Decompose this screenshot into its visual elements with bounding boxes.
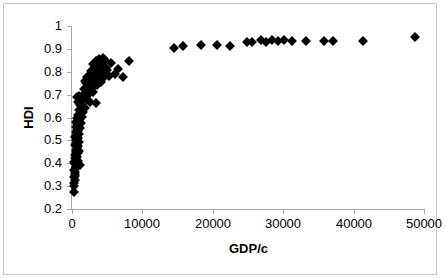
y-tick-label: 1 [4, 19, 62, 32]
data-point [118, 73, 128, 83]
x-tick-mark [424, 210, 425, 214]
data-point [178, 41, 188, 51]
y-tick-label: 0.8 [4, 65, 62, 78]
data-point [124, 57, 134, 67]
y-axis-title: HDI [21, 88, 36, 148]
data-point [358, 36, 368, 46]
x-tick-mark [142, 210, 143, 214]
x-tick-label: 0 [37, 217, 107, 230]
y-tick-mark [67, 26, 71, 27]
x-tick-label: 40000 [319, 217, 389, 230]
x-tick-label: 10000 [107, 217, 177, 230]
x-tick-mark [213, 210, 214, 214]
y-tick-mark [67, 95, 71, 96]
x-tick-label: 50000 [389, 217, 447, 230]
y-tick-mark [67, 118, 71, 119]
y-tick-label: 0.4 [4, 156, 62, 169]
scatter-plot-area [72, 26, 424, 209]
data-point [287, 36, 297, 46]
data-point [301, 36, 311, 46]
data-point [196, 40, 206, 50]
x-tick-label: 20000 [178, 217, 248, 230]
data-point [212, 40, 222, 50]
x-tick-mark [283, 210, 284, 214]
y-tick-label: 0.9 [4, 42, 62, 55]
y-tick-mark [67, 209, 71, 210]
y-tick-mark [67, 49, 71, 50]
x-axis-line [72, 209, 425, 210]
x-axis-title: GDP/c [72, 241, 425, 256]
x-tick-mark [72, 210, 73, 214]
x-tick-label: 30000 [248, 217, 318, 230]
x-tick-mark [354, 210, 355, 214]
y-tick-label: 0.3 [4, 179, 62, 192]
data-point [91, 98, 101, 108]
data-point [225, 41, 235, 51]
chart-container: 0.20.30.40.50.60.70.80.91 01000020000300… [3, 3, 437, 275]
data-point [169, 43, 179, 53]
data-point [328, 36, 338, 46]
y-tick-mark [67, 72, 71, 73]
y-tick-label: 0.2 [4, 202, 62, 215]
data-point [410, 32, 420, 42]
